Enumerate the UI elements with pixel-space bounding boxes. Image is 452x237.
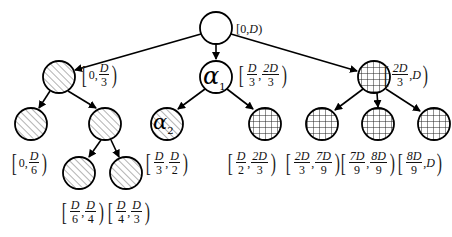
node-7d9-8d9 xyxy=(362,108,394,140)
edge-alpha1-n22 xyxy=(227,89,253,109)
node-0-d3 xyxy=(43,61,75,93)
node-d2-2d3 xyxy=(249,108,281,140)
alpha2-symbol: α2 xyxy=(153,110,174,136)
edge-n12-n121 xyxy=(89,140,101,157)
interval-7d9-8d9: [ 7D9, 8D9 ) xyxy=(339,150,397,176)
node-root xyxy=(200,12,232,44)
node-d6-d4 xyxy=(63,157,95,189)
edge-n3-n33 xyxy=(386,89,420,111)
tree-diagram: α1 α2 [0,D) [0, D3 ) [ D3, 2D3 ) [ 2D3,D… xyxy=(0,0,452,237)
interval-alpha1: [ D3, 2D3 ) xyxy=(237,62,289,88)
edge-n3-n32 xyxy=(377,93,378,107)
interval-alpha2: [ D3, D2 ) xyxy=(144,150,190,176)
interval-0-d6: [0, D6 ) xyxy=(10,150,49,176)
edges xyxy=(39,34,420,157)
alpha1-symbol: α1 xyxy=(203,62,226,92)
node-2d3-7d9 xyxy=(306,108,338,140)
interval-d4-d3: [ D4, D3 ) xyxy=(106,199,152,225)
interval-8d9-d: [ 8D9,D ) xyxy=(396,150,444,176)
edge-n12-n122 xyxy=(111,140,119,157)
node-d6-d3 xyxy=(89,108,121,140)
interval-0-d3: [0, D3 ) xyxy=(80,62,119,88)
node-8d9-d xyxy=(418,108,450,140)
edge-n3-n31 xyxy=(335,89,363,110)
interval-2d3-7d9: [ 2D3, 7D9 ) xyxy=(284,150,342,176)
interval-root: [0,D) xyxy=(236,22,262,35)
edge-n1-n12 xyxy=(68,91,96,108)
edge-alpha1-alpha2 xyxy=(178,89,205,109)
interval-d2-2d3: [ D2, 2D3 ) xyxy=(226,150,278,176)
interval-d6-d4: [ D6, D4 ) xyxy=(60,199,106,225)
interval-2d3-d: [ 2D3,D ) xyxy=(382,62,430,88)
node-0-d6 xyxy=(15,108,47,140)
node-d4-d3 xyxy=(110,157,142,189)
edge-n1-n11 xyxy=(39,91,50,108)
